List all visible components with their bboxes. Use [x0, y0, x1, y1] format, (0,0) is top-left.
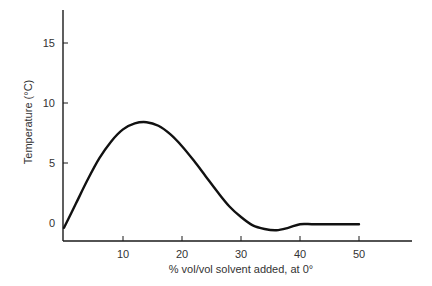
y-tick-label: 10 [43, 97, 55, 109]
y-ticks: 051015 [43, 37, 68, 229]
x-tick-label: 40 [294, 248, 306, 260]
x-tick-label: 20 [176, 248, 188, 260]
x-axis-title: % vol/vol solvent added, at 0° [169, 263, 313, 275]
x-tick-label: 10 [117, 248, 129, 260]
axes [63, 10, 412, 241]
x-tick-label: 30 [235, 248, 247, 260]
y-tick-label: 15 [43, 37, 55, 49]
series-line-temperature [64, 122, 359, 230]
x-tick-label: 50 [353, 248, 365, 260]
y-axis-title: Temperature (°C) [22, 80, 34, 164]
y-tick-label: 5 [49, 157, 55, 169]
chart: 1020304050 051015 % vol/vol solvent adde… [0, 0, 432, 286]
y-tick-label: 0 [49, 217, 55, 229]
x-ticks: 1020304050 [117, 236, 365, 260]
